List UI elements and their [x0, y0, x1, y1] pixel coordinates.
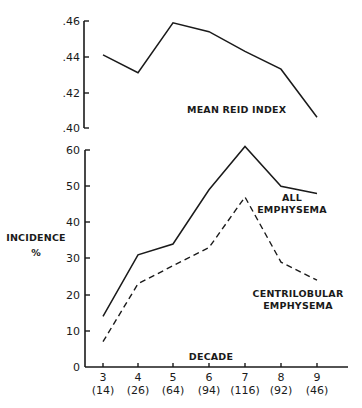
decade-8: 8 — [278, 371, 285, 384]
centrilobular-emphysema-line — [103, 197, 317, 342]
centrilobular-label-line2: EMPHYSEMA — [263, 300, 333, 311]
y-tick-20: 20 — [66, 289, 80, 302]
mean-reid-index-label: MEAN REID INDEX — [187, 104, 287, 115]
count-64: (64) — [162, 384, 185, 397]
top-y-tick-labels: .46 .44 .42 .40 — [63, 15, 81, 135]
y-tick-0: 0 — [73, 361, 80, 374]
top-tick-042: .42 — [63, 87, 81, 100]
y-axis-title-line1: INCIDENCE — [6, 232, 66, 243]
decade-3: 3 — [100, 371, 107, 384]
bottom-panel: 60 50 40 30 20 10 0 INCIDENCE % 3 4 5 6 … — [6, 144, 348, 397]
y-tick-30: 30 — [66, 252, 80, 265]
top-tick-046: .46 — [63, 15, 81, 28]
x-tick-labels: 3 4 5 6 7 8 9 (14) (26) (64) (94) (116) … — [92, 371, 329, 397]
decade-9: 9 — [314, 371, 321, 384]
top-tick-044: .44 — [63, 51, 81, 64]
y-tick-10: 10 — [66, 325, 80, 338]
bottom-y-tick-labels: 60 50 40 30 20 10 0 — [66, 144, 80, 374]
decade-7: 7 — [242, 371, 249, 384]
top-tick-040: .40 — [63, 122, 81, 135]
reid-index-emphysema-chart: .46 .44 .42 .40 MEAN REID INDEX 60 50 40… — [0, 0, 362, 408]
decade-5: 5 — [170, 371, 177, 384]
all-emphysema-label-line1: ALL — [282, 192, 302, 203]
x-axis-title: DECADE — [189, 351, 233, 362]
top-panel: .46 .44 .42 .40 MEAN REID INDEX — [63, 15, 318, 135]
count-92: (92) — [270, 384, 293, 397]
decade-6: 6 — [206, 371, 213, 384]
y-tick-50: 50 — [66, 180, 80, 193]
count-94: (94) — [198, 384, 221, 397]
centrilobular-label-line1: CENTRILOBULAR — [253, 288, 344, 299]
count-26: (26) — [127, 384, 150, 397]
count-116: (116) — [230, 384, 260, 397]
y-tick-40: 40 — [66, 216, 80, 229]
count-46: (46) — [306, 384, 329, 397]
y-axis-title-line2: % — [31, 247, 41, 258]
count-14: (14) — [92, 384, 115, 397]
y-tick-60: 60 — [66, 144, 80, 157]
all-emphysema-label-line2: EMPHYSEMA — [257, 204, 327, 215]
decade-4: 4 — [135, 371, 142, 384]
